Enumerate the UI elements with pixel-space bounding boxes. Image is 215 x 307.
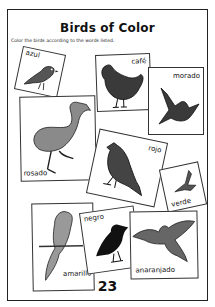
instructions: Color the birds according to the words l… — [11, 38, 114, 43]
parrot-icon — [38, 208, 83, 283]
worksheet-page: Birds of Color Color the birds according… — [7, 9, 208, 301]
sparrow-icon — [21, 58, 60, 94]
card-rojo: rojo — [86, 128, 168, 207]
card-rosado: rosado — [19, 95, 96, 181]
card-anaranjado: anaranjado — [129, 210, 198, 279]
card-label: verde — [171, 197, 192, 209]
page-number: 23 — [8, 278, 207, 294]
card-label: negro — [83, 213, 104, 224]
swallow-icon — [155, 84, 201, 134]
hen-icon — [98, 60, 148, 110]
card-label: anaranjado — [135, 266, 175, 275]
card-azul: azul — [14, 46, 66, 98]
page-title: Birds of Color — [8, 21, 207, 35]
card-cafe: café — [95, 53, 152, 112]
flamingo-icon — [28, 98, 95, 177]
hummingbird-icon — [167, 167, 202, 199]
flying-bird-icon — [130, 213, 199, 266]
card-label: morado — [173, 72, 200, 80]
cardinal-icon — [94, 137, 158, 201]
card-verde: verde — [159, 161, 207, 212]
card-morado: morado — [148, 67, 204, 135]
